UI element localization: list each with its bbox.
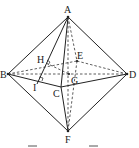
label-D: D xyxy=(129,69,136,80)
point-F xyxy=(67,130,70,133)
edge-EF xyxy=(68,61,77,131)
edge-CF xyxy=(61,87,68,131)
label-E: E xyxy=(77,50,83,61)
edge-AB xyxy=(8,17,68,74)
point-A xyxy=(67,16,70,19)
edge-AE xyxy=(68,17,77,61)
label-C: C xyxy=(53,88,60,99)
label-H: H xyxy=(37,54,44,65)
point-D xyxy=(126,73,129,76)
label-I: I xyxy=(33,82,36,93)
edge-ED xyxy=(77,61,127,74)
label-G: G xyxy=(71,75,78,86)
point-G xyxy=(68,73,70,75)
label-F: F xyxy=(65,134,71,145)
label-A: A xyxy=(64,4,72,15)
point-B xyxy=(7,73,10,76)
edge-AC xyxy=(61,17,68,87)
edge-AD xyxy=(68,17,127,74)
octahedron-diagram: A B D F C E G H I xyxy=(0,0,139,148)
label-B: B xyxy=(0,69,7,80)
